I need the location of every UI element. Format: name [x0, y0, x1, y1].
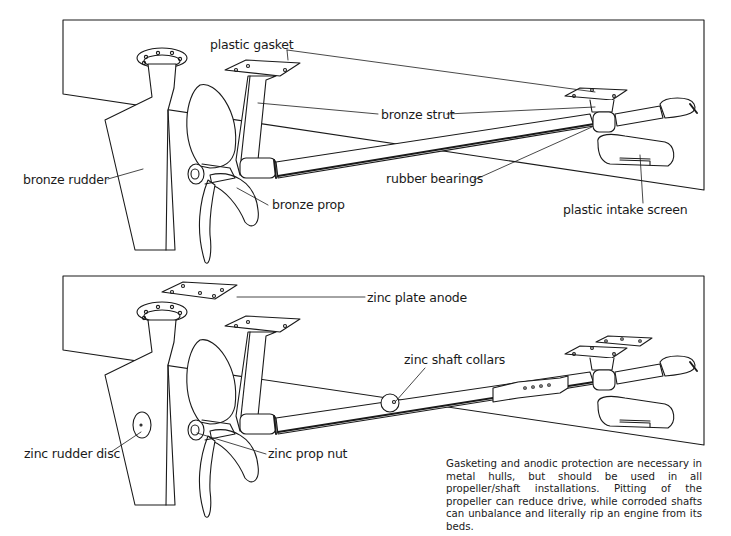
- label-zinc-rudder-disc: zinc rudder disc: [24, 446, 120, 461]
- bronze-rudder-shape: [105, 64, 176, 250]
- plastic-gasket-plate-2: [565, 88, 627, 100]
- leader-bronze-strut: [258, 103, 378, 114]
- label-bronze-prop: bronze prop: [272, 197, 345, 212]
- label-plastic-gasket: plastic gasket: [210, 37, 294, 52]
- zinc-shaft-collar-1: [381, 394, 399, 412]
- diagram-canvas: plastic gasket bronze strut bronze rudde…: [0, 0, 731, 536]
- label-bronze-rudder: bronze rudder: [23, 172, 109, 187]
- top-panel-art: [63, 20, 704, 263]
- leader-zinc-shaft-collars: [396, 368, 425, 401]
- label-plastic-intake-screen: plastic intake screen: [563, 202, 688, 217]
- figure-caption: Gasketing and anodic protection are nece…: [446, 458, 702, 534]
- label-bronze-strut: bronze strut: [381, 107, 455, 122]
- zinc-shaft-collar-2: [493, 376, 568, 402]
- bronze-prop-shape: [187, 84, 236, 168]
- label-zinc-prop-nut: zinc prop nut: [268, 446, 347, 461]
- label-rubber-bearings: rubber bearings: [386, 171, 483, 186]
- label-zinc-shaft-collars: zinc shaft collars: [404, 352, 505, 367]
- label-zinc-plate-anode: zinc plate anode: [367, 290, 467, 305]
- plastic-intake-screen-shape: [598, 134, 674, 166]
